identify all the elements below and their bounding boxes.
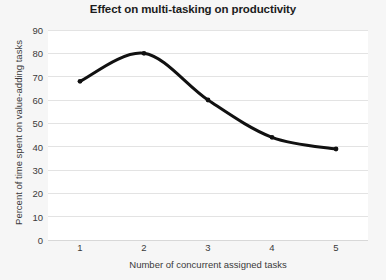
y-tick-label: 50 <box>3 118 43 129</box>
x-axis-title: Number of concurrent assigned tasks <box>48 259 368 270</box>
x-axis-tick-labels: 12345 <box>48 242 368 256</box>
y-tick-label: 0 <box>3 235 43 246</box>
y-tick-label: 80 <box>3 48 43 59</box>
x-tick-label: 5 <box>316 242 356 253</box>
y-tick-label: 10 <box>3 211 43 222</box>
chart-container: Effect on multi-tasking on productivity … <box>0 0 386 280</box>
series-markers <box>78 51 339 151</box>
chart-title: Effect on multi-tasking on productivity <box>0 3 386 15</box>
data-series-line <box>48 30 368 240</box>
data-point <box>206 98 211 103</box>
y-tick-label: 30 <box>3 165 43 176</box>
plot-area <box>48 30 368 240</box>
y-tick-label: 20 <box>3 188 43 199</box>
y-tick-label: 90 <box>3 25 43 36</box>
x-tick-label: 4 <box>252 242 292 253</box>
data-point <box>78 79 83 84</box>
y-axis-tick-labels: 0102030405060708090 <box>0 30 43 240</box>
data-point <box>142 51 147 56</box>
y-tick-label: 40 <box>3 141 43 152</box>
y-tick-label: 70 <box>3 71 43 82</box>
data-point <box>334 147 339 152</box>
y-tick-label: 60 <box>3 95 43 106</box>
x-tick-label: 2 <box>124 242 164 253</box>
x-tick-label: 1 <box>60 242 100 253</box>
data-point <box>270 135 275 140</box>
x-tick-label: 3 <box>188 242 228 253</box>
